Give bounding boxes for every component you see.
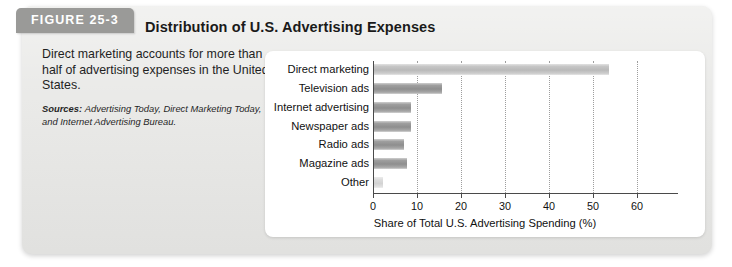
x-tick-10 — [417, 193, 418, 198]
bar-internet-advertising — [374, 102, 411, 113]
x-tick-label-50: 50 — [578, 200, 608, 212]
gridline-60 — [637, 61, 638, 193]
x-tick-30 — [505, 193, 506, 198]
x-tick-label-0: 0 — [358, 200, 388, 212]
figure-number-label: FIGURE 25-3 — [16, 8, 134, 33]
x-tick-20 — [461, 193, 462, 198]
bar-other — [374, 177, 383, 188]
x-tick-40 — [549, 193, 550, 198]
bar-magazine-ads — [374, 158, 407, 169]
x-tick-60 — [637, 193, 638, 198]
gridline-50 — [593, 61, 594, 193]
figure-caption-block: Direct marketing accounts for more than … — [42, 47, 274, 128]
x-tick-label-10: 10 — [402, 200, 432, 212]
category-label-internet-advertising: Internet advertising — [274, 101, 369, 113]
figure-sources: Sources: Advertising Today, Direct Marke… — [42, 102, 274, 128]
sources-label: Sources: — [42, 103, 82, 114]
chart-title: Distribution of U.S. Advertising Expense… — [145, 19, 435, 35]
x-tick-label-20: 20 — [446, 200, 476, 212]
bar-radio-ads — [374, 139, 404, 150]
x-tick-50 — [593, 193, 594, 198]
category-label-direct-marketing: Direct marketing — [288, 63, 369, 75]
category-label-other: Other — [341, 176, 369, 188]
plot-card: 0102030405060Direct marketingTelevision … — [265, 51, 705, 237]
x-tick-label-30: 30 — [490, 200, 520, 212]
x-tick-0 — [373, 193, 374, 198]
x-axis-line — [373, 193, 678, 194]
bar-newspaper-ads — [374, 121, 411, 132]
x-axis-title: Share of Total U.S. Advertising Spending… — [265, 217, 705, 229]
figure-caption-text: Direct marketing accounts for more than … — [42, 47, 274, 94]
category-label-radio-ads: Radio ads — [319, 138, 369, 150]
bar-direct-marketing — [374, 64, 609, 75]
gridline-30 — [505, 61, 506, 193]
gridline-20 — [461, 61, 462, 193]
bar-television-ads — [374, 83, 442, 94]
category-label-newspaper-ads: Newspaper ads — [291, 120, 369, 132]
category-label-television-ads: Television ads — [299, 82, 369, 94]
category-label-magazine-ads: Magazine ads — [299, 157, 369, 169]
figure-root: FIGURE 25-3 Distribution of U.S. Adverti… — [0, 0, 732, 267]
gridline-10 — [417, 61, 418, 193]
x-tick-label-40: 40 — [534, 200, 564, 212]
figure-number-tab: FIGURE 25-3 — [16, 8, 134, 33]
x-tick-label-60: 60 — [622, 200, 652, 212]
plot-area: 0102030405060Direct marketingTelevision … — [265, 51, 705, 237]
gridline-40 — [549, 61, 550, 193]
